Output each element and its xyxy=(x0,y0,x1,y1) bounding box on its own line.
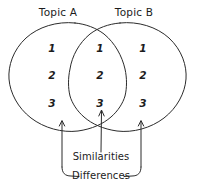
differences-label: Differences xyxy=(72,171,130,181)
venn-diagram-canvas: Topic A Topic B 1 2 3 1 2 3 1 2 3 Simila… xyxy=(0,0,200,186)
circle-topic-b xyxy=(69,23,187,132)
similarities-label: Similarities xyxy=(73,152,130,162)
topic-b-label: Topic B xyxy=(115,7,153,18)
similarities-arrow-stem xyxy=(101,111,102,152)
right-item-1: 1 xyxy=(139,43,146,54)
topic-a-label: Topic A xyxy=(39,7,77,18)
overlap-item-2: 2 xyxy=(96,70,103,81)
left-item-3: 3 xyxy=(48,98,55,109)
left-item-2: 2 xyxy=(48,70,55,81)
right-item-2: 2 xyxy=(139,70,146,81)
overlap-item-3: 3 xyxy=(96,98,103,109)
right-item-3: 3 xyxy=(139,98,146,109)
circle-topic-a xyxy=(9,23,127,132)
left-item-1: 1 xyxy=(48,43,55,54)
overlap-item-1: 1 xyxy=(96,43,103,54)
